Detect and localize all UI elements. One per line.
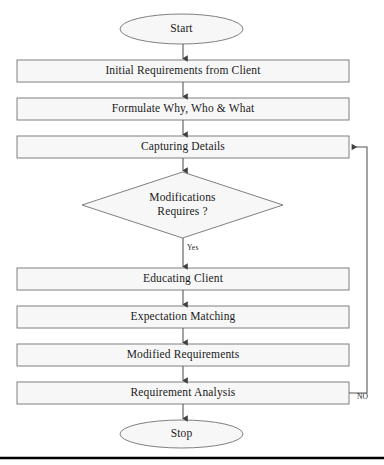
flowchart-diagram: Start Initial Requirements from Client F… xyxy=(0,0,384,465)
node-requirement-analysis xyxy=(17,382,349,404)
node-capturing-details xyxy=(17,136,349,158)
node-modified-requirements xyxy=(17,344,349,366)
node-start xyxy=(120,14,243,44)
node-formulate-why-who-what xyxy=(17,98,349,120)
node-stop xyxy=(120,420,243,448)
flowchart-canvas-svg xyxy=(0,0,384,465)
node-expectation-matching xyxy=(17,306,349,328)
node-educating-client xyxy=(17,268,349,290)
node-modifications-decision xyxy=(82,172,283,238)
node-initial-requirements xyxy=(17,60,349,82)
edge-analysis-to-capturing-feedback xyxy=(349,147,367,393)
